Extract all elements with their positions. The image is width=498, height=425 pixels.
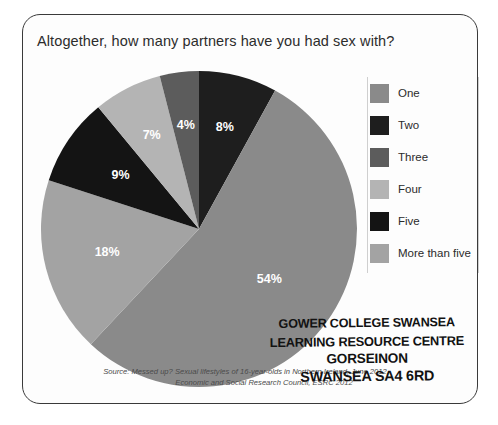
legend-swatch-icon xyxy=(370,116,389,135)
pie-slice-label: 8% xyxy=(216,120,234,134)
stamp-line-centre: LEARNING RESOURCE CENTRE xyxy=(259,331,475,351)
legend-swatch-icon xyxy=(370,244,389,263)
legend-item-label: Four xyxy=(398,183,422,195)
pie-slice-label: 18% xyxy=(95,245,120,259)
legend-item-label: More than five xyxy=(398,247,471,259)
legend-item[interactable]: Two xyxy=(370,109,478,141)
legend-item-label: Five xyxy=(398,215,420,227)
legend-item-label: Three xyxy=(398,151,428,163)
pie-slice-label: 7% xyxy=(143,128,161,142)
page-title: Altogether, how many partners have you h… xyxy=(37,33,394,49)
legend-item[interactable]: Three xyxy=(370,141,478,173)
legend-item[interactable]: Four xyxy=(370,173,478,205)
legend-item[interactable]: More than five xyxy=(370,237,478,269)
legend-swatch-icon xyxy=(370,84,389,103)
pie-slice-label: 54% xyxy=(257,272,282,286)
library-stamp: GOWER COLLEGE SWANSEA LEARNING RESOURCE … xyxy=(259,314,476,386)
chart-card: Altogether, how many partners have you h… xyxy=(22,14,478,404)
legend-item-label: Two xyxy=(398,119,419,131)
legend-item-label: One xyxy=(398,87,420,99)
legend-swatch-icon xyxy=(370,212,389,231)
legend-swatch-icon xyxy=(370,180,389,199)
stamp-line-town: GORSEINON xyxy=(259,349,475,369)
pie-slice-label: 9% xyxy=(112,168,130,182)
legend-swatch-icon xyxy=(370,148,389,167)
chart-legend: OneTwoThreeFourFiveMore than five xyxy=(367,77,479,273)
stamp-line-college: GOWER COLLEGE SWANSEA xyxy=(259,314,475,334)
legend-item[interactable]: Five xyxy=(370,205,478,237)
stamp-line-postcode: SWANSEA SA4 6RD xyxy=(259,366,475,386)
pie-slice-label: 4% xyxy=(177,118,195,132)
legend-item[interactable]: One xyxy=(370,77,478,109)
